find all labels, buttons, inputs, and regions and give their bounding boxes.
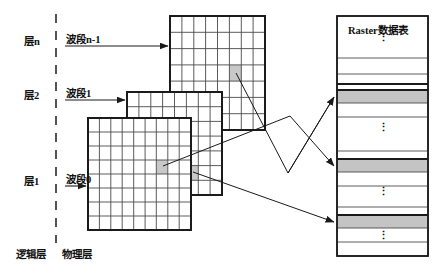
table-ellipsis-1: ⋮ xyxy=(371,36,395,39)
table-ellipsis-2: ⋮ xyxy=(371,126,395,129)
layer-label-n: 层n xyxy=(24,33,40,48)
raster-data-table xyxy=(337,16,428,256)
layer-label-1: 层1 xyxy=(24,173,39,188)
footer-logical-layer: 逻辑层 xyxy=(16,246,46,261)
band-label-0: 波段0 xyxy=(66,171,91,186)
table-ellipsis-4: ⋮ xyxy=(371,234,395,237)
footer-physical-layer: 物理层 xyxy=(62,246,92,261)
diagram-canvas: 层n 波段n-1 层2 波段1 层1 波段0 逻辑层 物理层 Raster数据表… xyxy=(0,0,448,269)
table-ellipsis-3: ⋮ xyxy=(371,190,395,193)
layer-1-grid xyxy=(88,118,191,230)
band-label-1: 波段1 xyxy=(66,85,91,100)
connector-layer-2-to-table xyxy=(193,172,334,222)
layer-label-2: 层2 xyxy=(24,87,39,102)
band-label-n: 波段n-1 xyxy=(66,31,101,46)
